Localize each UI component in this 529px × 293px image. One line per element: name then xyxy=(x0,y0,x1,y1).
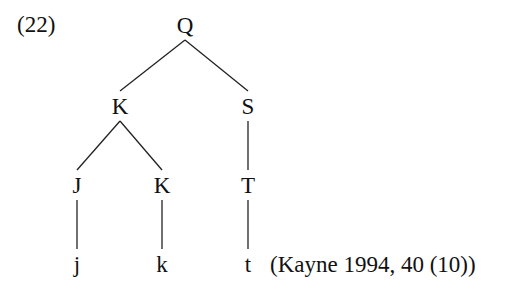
node-k: k xyxy=(156,253,168,276)
node-K2: K xyxy=(154,174,171,197)
node-Q: Q xyxy=(177,14,194,37)
node-j: j xyxy=(74,253,80,276)
node-t: t xyxy=(245,253,251,276)
edge-Q-S xyxy=(185,40,248,91)
node-J: J xyxy=(73,174,82,197)
citation: (Kayne 1994, 40 (10)) xyxy=(270,253,476,276)
edge-Q-K1 xyxy=(120,40,185,91)
node-K1: K xyxy=(112,95,129,118)
edge-K1-K2 xyxy=(120,121,162,170)
edge-K1-J xyxy=(77,121,120,170)
node-T: T xyxy=(241,174,255,197)
tree-edges xyxy=(0,0,529,293)
node-S: S xyxy=(242,95,255,118)
